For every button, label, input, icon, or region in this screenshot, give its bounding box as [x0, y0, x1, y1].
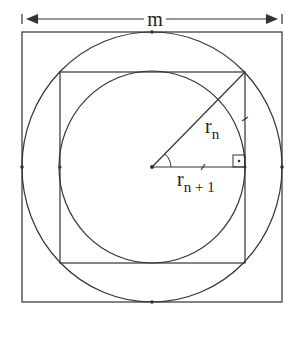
radius-rn-line — [152, 72, 245, 167]
geometry-diagram: m rn rn + 1 — [0, 0, 306, 338]
right-angle-dot — [238, 160, 241, 163]
label-rn1: rn + 1 — [177, 168, 215, 195]
label-m: m — [147, 8, 163, 30]
angle-arc — [165, 154, 171, 167]
label-rn: rn — [205, 115, 220, 142]
